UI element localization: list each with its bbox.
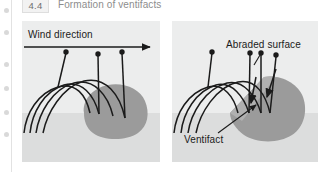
sand-grain-group <box>63 49 124 56</box>
page-margin-strip <box>0 0 16 172</box>
wind-direction-label: Wind direction <box>28 29 93 41</box>
abraded-ventifact-panel: Abraded surface Ventifact <box>172 21 318 162</box>
sand-grain-dot <box>247 50 252 55</box>
margin-dot <box>4 86 9 91</box>
figure-caption-header: 4.4 Formation of ventifacts <box>22 0 161 14</box>
page-margin-rule <box>11 0 12 172</box>
abraded-surface-label: Abraded surface <box>226 39 301 51</box>
grain-launch-line <box>208 53 212 87</box>
sand-grain-dot <box>95 51 100 56</box>
margin-dot <box>4 132 9 137</box>
figure-title: Formation of ventifacts <box>58 0 161 11</box>
grain-launch-line <box>98 55 99 114</box>
initial-abrasion-panel: Wind direction <box>22 21 160 162</box>
grain-launch-line <box>58 53 66 87</box>
figure-number-badge: 4.4 <box>22 0 49 13</box>
grain-launch-line <box>249 54 250 113</box>
figure-root: 4.4 Formation of ventifacts <box>0 0 328 172</box>
sand-grain-dot <box>119 49 124 54</box>
sand-grain-dot <box>258 50 263 55</box>
margin-dot <box>4 62 9 67</box>
sand-grain-dot <box>63 49 68 54</box>
boulder-shape <box>84 84 148 139</box>
margin-dot <box>4 110 9 115</box>
margin-dot <box>4 8 9 13</box>
margin-dot <box>4 30 9 35</box>
sand-grain-dot <box>273 52 278 57</box>
ventifact-label: Ventifact <box>184 134 223 146</box>
initial-abrasion-illustration <box>22 21 160 162</box>
sand-grain-dot <box>209 49 214 54</box>
abraded-surface-leader-line <box>254 55 260 65</box>
